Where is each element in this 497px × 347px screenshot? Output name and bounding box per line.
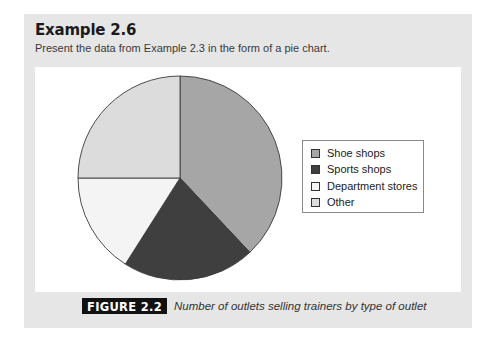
example-title: Example 2.6 (35, 21, 136, 39)
legend-item-department-stores: Department stores (311, 179, 417, 193)
legend-swatch (311, 198, 320, 207)
legend-label: Shoe shops (327, 147, 385, 159)
example-instruction: Present the data from Example 2.3 in the… (35, 42, 330, 54)
legend-swatch (311, 165, 320, 174)
pie-slice-other (78, 76, 180, 178)
legend-label: Sports shops (327, 163, 391, 175)
legend-item-shoe-shops: Shoe shops (311, 146, 385, 160)
legend-swatch (311, 182, 320, 191)
legend-label: Other (327, 196, 355, 208)
figure-caption-text: Number of outlets selling trainers by ty… (174, 300, 427, 312)
legend-item-other: Other (311, 195, 355, 209)
legend-label: Department stores (327, 180, 417, 192)
example-panel: Example 2.6 Present the data from Exampl… (24, 14, 472, 328)
figure-number-badge: FIGURE 2.2 (82, 298, 167, 314)
chart-area: Shoe shops Sports shops Department store… (35, 67, 461, 292)
figure-caption: FIGURE 2.2 Number of outlets selling tra… (82, 298, 427, 314)
legend-item-sports-shops: Sports shops (311, 162, 391, 176)
legend-swatch (311, 149, 320, 158)
chart-legend: Shoe shops Sports shops Department store… (302, 140, 424, 213)
